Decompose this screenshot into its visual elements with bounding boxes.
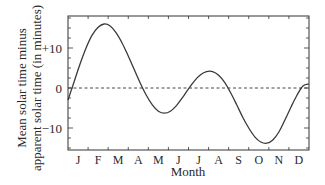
y-axis-label-line-2: apparent solar time (in minutes) <box>29 5 44 171</box>
x-tick-label: M <box>113 153 124 167</box>
x-tick-label: O <box>254 153 263 167</box>
equation-of-time-series-line <box>68 24 309 143</box>
x-tick-label: A <box>134 153 143 167</box>
x-tick-label: S <box>235 153 242 167</box>
y-tick-labels: +100−10 <box>42 41 62 136</box>
plot-frame <box>68 16 309 150</box>
x-tick-label: A <box>214 153 223 167</box>
y-axis-label-line-1: Mean solar time minus <box>14 28 29 148</box>
x-axis-label: Month <box>171 164 206 179</box>
y-tick-label: −10 <box>42 121 62 136</box>
y-tick-label: +10 <box>42 41 62 56</box>
y-tick-label: 0 <box>56 81 63 96</box>
x-tick-label: M <box>153 153 164 167</box>
x-tick-label: J <box>76 153 81 167</box>
equation-of-time-chart: +100−10 JFMAMJJASOND Month Mean solar ti… <box>0 0 325 185</box>
x-tick-label: D <box>295 153 304 167</box>
minor-ticks <box>68 18 309 148</box>
x-tick-label: N <box>275 153 284 167</box>
x-tick-label: F <box>95 153 102 167</box>
